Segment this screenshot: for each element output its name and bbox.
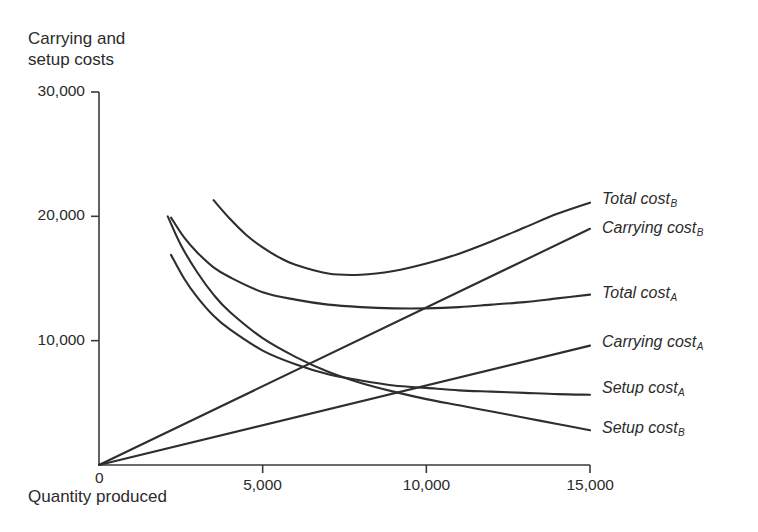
series-line — [171, 218, 590, 309]
x-tick-label: 10,000 — [403, 476, 450, 494]
series-line — [99, 229, 590, 465]
series-label-subscript: B — [696, 227, 703, 238]
series-label: Setup costA — [602, 379, 685, 397]
series-label-text: Carrying cost — [602, 219, 696, 236]
y-tick-label: 30,000 — [0, 82, 85, 100]
series-label: Setup costB — [602, 419, 685, 437]
series-line — [99, 346, 590, 465]
series-line — [168, 216, 590, 430]
y-tick-label: 10,000 — [0, 331, 85, 349]
series-label-text: Total cost — [602, 190, 670, 207]
series-label: Total costB — [602, 190, 677, 208]
x-tick-label: 15,000 — [567, 476, 614, 494]
series-label: Total costA — [602, 284, 677, 302]
series-label: Carrying costA — [602, 333, 703, 351]
series-label-text: Total cost — [602, 284, 670, 301]
chart-figure: Carrying andsetup costs Quantity produce… — [0, 0, 758, 532]
series-label-subscript: B — [678, 427, 685, 438]
series-line — [171, 255, 590, 395]
series-label: Carrying costB — [602, 219, 703, 237]
series-label-subscript: A — [696, 341, 703, 352]
series-label-subscript: A — [670, 292, 677, 303]
y-tick-label: 20,000 — [0, 206, 85, 224]
x-tick-label: 5,000 — [243, 476, 282, 494]
series-label-text: Setup cost — [602, 379, 678, 396]
series-label-text: Carrying cost — [602, 333, 696, 350]
series-label-subscript: A — [678, 387, 685, 398]
plot-area — [0, 0, 758, 532]
y-tick-label: 0 — [95, 469, 135, 487]
series-label-subscript: B — [670, 198, 677, 209]
series-label-text: Setup cost — [602, 419, 678, 436]
series-line — [214, 200, 590, 275]
